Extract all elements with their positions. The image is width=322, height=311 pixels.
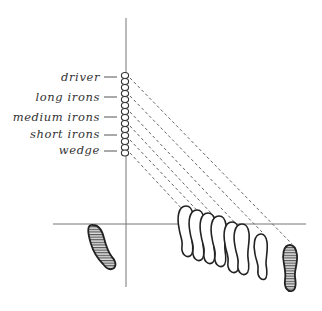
label-ticks [104,77,117,151]
label-medium-irons: medium irons [13,110,100,124]
club-labels: driver long irons medium irons short iro… [13,70,101,157]
rightmost-footprint-icon [283,245,297,291]
ball-position-diagram: driver long irons medium irons short iro… [0,0,322,311]
footprint-icon [254,234,267,279]
right-footprints [178,206,267,279]
left-footprint-icon [88,225,115,269]
label-long-irons: long irons [36,90,100,104]
label-driver: driver [61,70,101,84]
label-wedge: wedge [59,143,100,157]
ball-bead-column [121,73,128,157]
label-short-irons: short irons [30,127,100,141]
